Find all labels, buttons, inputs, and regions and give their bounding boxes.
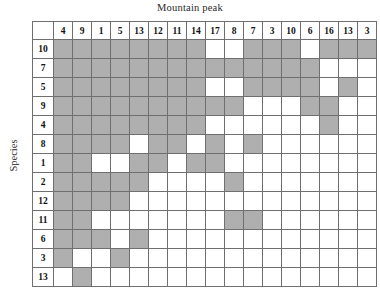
- matrix-cell-empty: [206, 211, 225, 230]
- matrix-cell-filled: [73, 268, 92, 287]
- matrix-cell-empty: [301, 211, 320, 230]
- matrix-cell-filled: [130, 230, 149, 249]
- matrix-cell-empty: [187, 173, 206, 192]
- column-header-row: 4915131211141787310616133: [33, 22, 377, 40]
- matrix-cell-filled: [225, 211, 244, 230]
- matrix-cell-filled: [168, 97, 187, 116]
- matrix-cell-filled: [54, 154, 73, 173]
- matrix-cell-empty: [301, 268, 320, 287]
- matrix-cell-empty: [225, 78, 244, 97]
- row-header: 5: [33, 78, 54, 97]
- matrix-cell-empty: [92, 268, 111, 287]
- matrix-cell-empty: [339, 154, 358, 173]
- matrix-cell-filled: [111, 40, 130, 59]
- matrix-cell-empty: [282, 211, 301, 230]
- matrix-cell-empty: [187, 268, 206, 287]
- matrix-cell-empty: [225, 249, 244, 268]
- matrix-cell-filled: [54, 116, 73, 135]
- matrix-cell-filled: [320, 40, 339, 59]
- matrix-cell-filled: [92, 173, 111, 192]
- presence-absence-table: 4915131211141787310616133 10759481212116…: [32, 21, 377, 287]
- matrix-cell-empty: [149, 211, 168, 230]
- matrix-cell-empty: [358, 116, 377, 135]
- matrix-cell-empty: [149, 173, 168, 192]
- column-header: 4: [54, 22, 73, 40]
- matrix-cell-empty: [244, 97, 263, 116]
- column-header: 12: [149, 22, 168, 40]
- matrix-cell-empty: [149, 192, 168, 211]
- matrix-cell-empty: [263, 97, 282, 116]
- matrix-cell-empty: [339, 211, 358, 230]
- matrix-cell-empty: [244, 173, 263, 192]
- matrix-cell-empty: [244, 249, 263, 268]
- matrix-cell-filled: [244, 211, 263, 230]
- matrix-cell-empty: [206, 116, 225, 135]
- row-header: 7: [33, 59, 54, 78]
- matrix-cell-empty: [339, 268, 358, 287]
- table-row: 2: [33, 173, 377, 192]
- matrix-cell-empty: [187, 230, 206, 249]
- matrix-cell-empty: [358, 59, 377, 78]
- matrix-cell-empty: [358, 97, 377, 116]
- column-header: 1: [92, 22, 111, 40]
- matrix-cell-filled: [263, 59, 282, 78]
- matrix-cell-filled: [130, 40, 149, 59]
- matrix-cell-empty: [168, 173, 187, 192]
- table-row: 1: [33, 154, 377, 173]
- matrix-cell-empty: [168, 268, 187, 287]
- matrix-cell-empty: [225, 116, 244, 135]
- matrix-cell-filled: [130, 173, 149, 192]
- matrix-cell-empty: [244, 230, 263, 249]
- matrix-cell-empty: [168, 154, 187, 173]
- matrix-cell-empty: [301, 40, 320, 59]
- matrix-cell-empty: [263, 249, 282, 268]
- matrix-cell-filled: [54, 211, 73, 230]
- matrix-cell-filled: [206, 97, 225, 116]
- matrix-cell-filled: [301, 97, 320, 116]
- matrix-cell-empty: [206, 173, 225, 192]
- matrix-cell-empty: [92, 211, 111, 230]
- matrix-cell-filled: [130, 78, 149, 97]
- matrix-cell-filled: [73, 116, 92, 135]
- matrix-cell-filled: [111, 249, 130, 268]
- matrix-cell-filled: [244, 135, 263, 154]
- matrix-cell-empty: [206, 249, 225, 268]
- matrix-cell-empty: [263, 154, 282, 173]
- matrix-cell-empty: [187, 192, 206, 211]
- matrix-cell-filled: [206, 59, 225, 78]
- matrix-cell-empty: [282, 192, 301, 211]
- matrix-cell-filled: [130, 116, 149, 135]
- matrix-cell-filled: [92, 40, 111, 59]
- matrix-cell-empty: [168, 211, 187, 230]
- row-header: 11: [33, 211, 54, 230]
- matrix-cell-empty: [282, 230, 301, 249]
- matrix-cell-filled: [187, 116, 206, 135]
- matrix-cell-empty: [320, 154, 339, 173]
- table-row: 7: [33, 59, 377, 78]
- matrix-cell-empty: [244, 154, 263, 173]
- matrix-cell-empty: [225, 40, 244, 59]
- matrix-cell-empty: [130, 249, 149, 268]
- table-row: 13: [33, 268, 377, 287]
- matrix-cell-filled: [92, 230, 111, 249]
- table-row: 5: [33, 78, 377, 97]
- matrix-cell-filled: [73, 135, 92, 154]
- matrix-cell-empty: [339, 173, 358, 192]
- row-header: 2: [33, 173, 54, 192]
- matrix-cell-filled: [187, 40, 206, 59]
- matrix-cell-empty: [111, 211, 130, 230]
- matrix-cell-filled: [111, 116, 130, 135]
- matrix-cell-empty: [263, 192, 282, 211]
- matrix-cell-empty: [339, 116, 358, 135]
- row-header: 8: [33, 135, 54, 154]
- matrix-cell-filled: [92, 192, 111, 211]
- matrix-cell-empty: [339, 192, 358, 211]
- row-header: 12: [33, 192, 54, 211]
- matrix-cell-empty: [320, 173, 339, 192]
- matrix-cell-empty: [206, 78, 225, 97]
- matrix-cell-filled: [54, 135, 73, 154]
- column-header: 13: [130, 22, 149, 40]
- matrix-cell-filled: [54, 173, 73, 192]
- matrix-cell-filled: [92, 135, 111, 154]
- matrix-cell-empty: [282, 154, 301, 173]
